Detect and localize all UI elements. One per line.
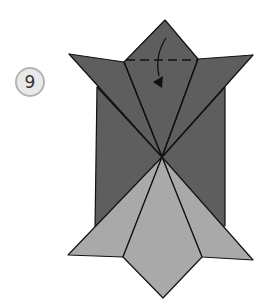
- origami-figure: [0, 0, 276, 305]
- origami-diagram: 9: [0, 0, 276, 305]
